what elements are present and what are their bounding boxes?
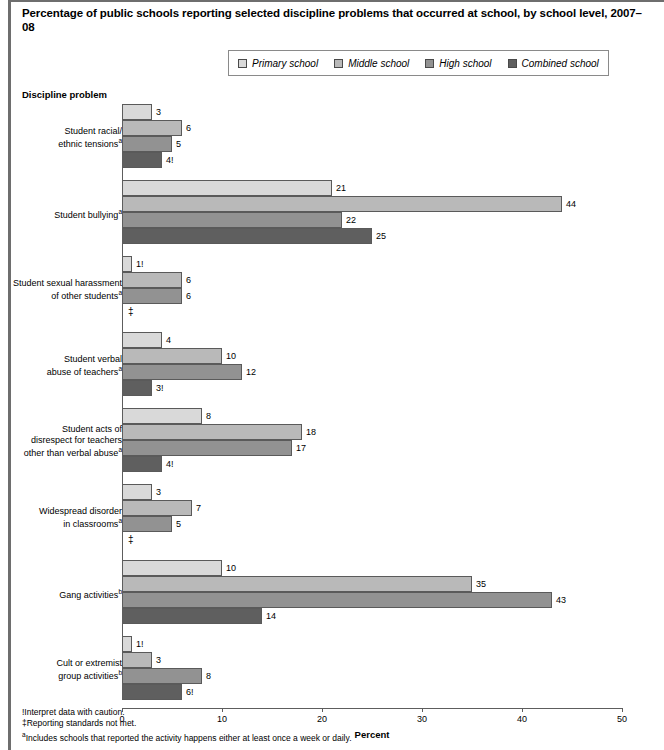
bar-value-label: 22 [346, 212, 356, 228]
bar-value-label: 21 [336, 180, 346, 196]
footnote-reporting-standards: ‡Reporting standards not met. [22, 718, 642, 729]
bar-value-label: 3 [156, 652, 161, 668]
bar [122, 652, 152, 668]
bar-value-label: 1! [136, 256, 144, 272]
figure-page: Percentage of public schools reporting s… [0, 0, 664, 750]
bar [122, 364, 242, 380]
bar [122, 456, 162, 472]
bar [122, 212, 342, 228]
bar [122, 424, 302, 440]
bar-value-label: 1! [136, 636, 144, 652]
suppressed-value-marker: ‡ [128, 304, 134, 320]
category-label: Student sexual harassmentof other studen… [0, 278, 122, 302]
bar [122, 484, 152, 500]
category-label: Student bullyinga [0, 207, 122, 221]
bar [122, 592, 552, 608]
bar [122, 272, 182, 288]
bar [122, 576, 472, 592]
bar [122, 288, 182, 304]
y-axis-line [122, 104, 123, 700]
bar-value-label: 6! [186, 684, 194, 700]
bar-value-label: 8 [206, 408, 211, 424]
bar [122, 332, 162, 348]
category-label: Cult or extremistgroup activitiesb [0, 658, 122, 682]
bar [122, 196, 562, 212]
bar-value-label: 25 [376, 228, 386, 244]
bar-value-label: 3 [156, 484, 161, 500]
bar-value-label: 7 [196, 500, 201, 516]
bar-value-label: 35 [476, 576, 486, 592]
bar-value-label: 4 [166, 332, 171, 348]
bar-value-label: 18 [306, 424, 316, 440]
bar-value-label: 10 [226, 348, 236, 364]
bar-value-label: 8 [206, 668, 211, 684]
bar [122, 136, 172, 152]
bar [122, 560, 222, 576]
bar-value-label: 4! [166, 456, 174, 472]
bar-value-label: 10 [226, 560, 236, 576]
footnote-a-marker: a [22, 731, 26, 738]
bar [122, 408, 202, 424]
bar [122, 684, 182, 700]
category-label: Student verbalabuse of teachersa [0, 354, 122, 378]
bar-value-label: 6 [186, 120, 191, 136]
bar [122, 152, 162, 168]
bar-value-label: 44 [566, 196, 576, 212]
bar-value-label: 4! [166, 152, 174, 168]
bar [122, 440, 292, 456]
bar-value-label: 6 [186, 272, 191, 288]
category-label: Gang activitiesb [0, 587, 122, 601]
category-label: Widespread disorderin classroomsa [0, 506, 122, 530]
bar [122, 380, 152, 396]
bar [122, 668, 202, 684]
bar [122, 180, 332, 196]
bar [122, 500, 192, 516]
bar-value-label: 3 [156, 104, 161, 120]
bar-value-label: 3! [156, 380, 164, 396]
footnote-interpret-caution: !Interpret data with caution. [22, 707, 642, 718]
bar [122, 516, 172, 532]
bar-value-label: 17 [296, 440, 306, 456]
bar [122, 608, 262, 624]
category-label: Student acts ofdisrespect for teachersot… [0, 424, 122, 459]
bar [122, 104, 152, 120]
bar [122, 348, 222, 364]
bar-value-label: 12 [246, 364, 256, 380]
bar-value-label: 5 [176, 516, 181, 532]
bar [122, 636, 132, 652]
bar-chart-plot-area: 3654!Student racial/ethnic tensionsa2144… [0, 0, 664, 750]
bar [122, 228, 372, 244]
bar [122, 256, 132, 272]
category-label: Student racial/ethnic tensionsa [0, 126, 122, 150]
bar-value-label: 5 [176, 136, 181, 152]
figure-footnotes: !Interpret data with caution. ‡Reporting… [22, 707, 642, 744]
bar-value-label: 43 [556, 592, 566, 608]
suppressed-value-marker: ‡ [128, 532, 134, 548]
footnote-a: aIncludes schools that reported the acti… [22, 729, 642, 744]
bar-value-label: 6 [186, 288, 191, 304]
bar-value-label: 14 [266, 608, 276, 624]
bar [122, 120, 182, 136]
